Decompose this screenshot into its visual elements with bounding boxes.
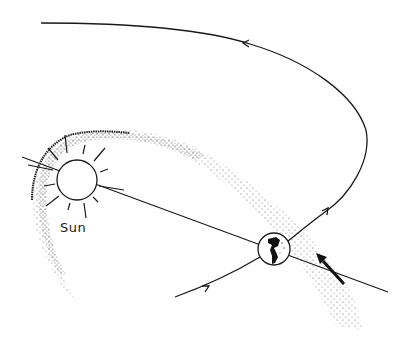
orbit-arrow-bottom	[202, 286, 209, 292]
orbit-path-inner	[175, 257, 260, 297]
earth-icon	[258, 233, 290, 265]
sun-label: Sun	[60, 220, 86, 235]
orbit-diagram	[0, 0, 405, 343]
diagram-canvas: Sun	[0, 0, 405, 343]
